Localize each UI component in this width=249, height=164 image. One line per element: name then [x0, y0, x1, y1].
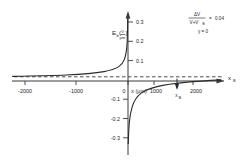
x-tick-label-4: 2000 [190, 88, 202, 94]
y-tick-label--0.2: -0.2 [111, 116, 120, 122]
x-tick-label-1: -1000 [69, 88, 83, 94]
marker-xb-group: x B [175, 79, 182, 100]
annotation-denominator: V+V [190, 20, 200, 25]
annotation-numerator: ΔV [194, 12, 201, 17]
y-tick-label-0.2: 0.2 [136, 38, 144, 44]
marker-xb-arrowhead [175, 84, 179, 90]
y-axis-arrowhead [126, 11, 131, 19]
curve-left-branch [13, 18, 128, 76]
y-axis-title-group: E b ( V μm ) [112, 29, 128, 40]
y-tick-label-0.3: 0.3 [136, 19, 144, 25]
plot-svg: x B -2000 -1000 0 1000 2000 x (μm) [0, 0, 249, 164]
annotation-second-line: y = 0 [198, 29, 209, 34]
marker-xb-label-sub: B [179, 95, 182, 100]
x-tick-label-0: -2000 [18, 88, 32, 94]
x-tick-label-3: 1000 [150, 88, 162, 94]
x-axis-arrowhead [217, 79, 225, 84]
y-axis-title-units-numerator: V [121, 29, 124, 34]
y-tick-label--0.3: -0.3 [111, 135, 120, 141]
x-axis-arrow-label-sub: B [233, 78, 236, 83]
annotation-value: 0.04 [215, 16, 224, 21]
x-tick-label-2: 0 [123, 88, 126, 94]
annotation-equals: = [209, 16, 212, 21]
x-axis-arrow-label: x [228, 74, 232, 81]
annotation-denominator-sub: B [203, 22, 206, 26]
annotation-block: ΔV V+V B = 0.04 y = 0 [189, 12, 225, 34]
chart-figure: x B -2000 -1000 0 1000 2000 x (μm) [0, 0, 249, 164]
y-tick-label--0.1: -0.1 [111, 96, 120, 102]
y-tick-label-0.1: 0.1 [136, 58, 144, 64]
